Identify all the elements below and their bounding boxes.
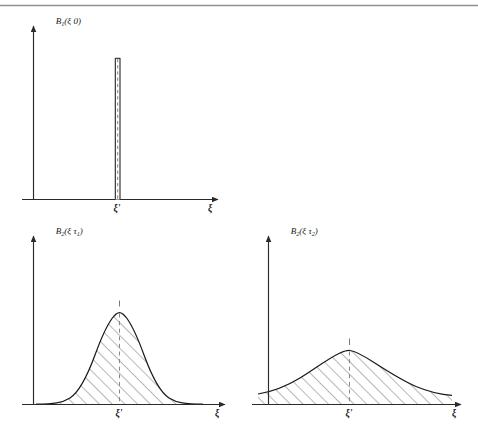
figure-canvas: B1(ξ 0) ξ' ξ B2(ξ τ1) ξ' ξ bbox=[0, 0, 478, 440]
y-axis-label-close: ) bbox=[314, 226, 318, 236]
x-tick-label-xi-prime: ξ' bbox=[116, 408, 123, 419]
x-axis-label-panel-bottom-left: ξ bbox=[215, 408, 220, 419]
x-axis-label-panel-bottom-right: ξ bbox=[452, 408, 457, 419]
y-axis-label-args: (ξ 0) bbox=[64, 16, 81, 26]
y-axis-label-panel-top: B1(ξ 0) bbox=[40, 16, 92, 27]
broad-gaussian-panel: B2(ξ τ2) ξ' ξ bbox=[252, 226, 461, 419]
x-axis-label-panel-top: ξ bbox=[208, 203, 213, 214]
y-axis-label-panel-bottom-right: B2(ξ τ2) bbox=[275, 226, 329, 237]
impulse-spike bbox=[115, 58, 120, 200]
y-axis-label-panel-bottom-left: B2(ξ τ1) bbox=[40, 226, 94, 237]
delta-distribution-panel: B1(ξ 0) ξ' ξ bbox=[22, 16, 218, 214]
y-axis-label-args: (ξ τ bbox=[64, 226, 77, 236]
x-tick-label-xi-prime: ξ' bbox=[114, 203, 121, 214]
narrow-gaussian-panel: B2(ξ τ1) ξ' ξ bbox=[22, 226, 225, 419]
y-axis-label-args: (ξ τ bbox=[299, 226, 312, 236]
y-axis-label-close: ) bbox=[79, 226, 83, 236]
hatched-area bbox=[258, 350, 452, 404]
x-tick-label-xi-prime: ξ' bbox=[346, 408, 353, 419]
